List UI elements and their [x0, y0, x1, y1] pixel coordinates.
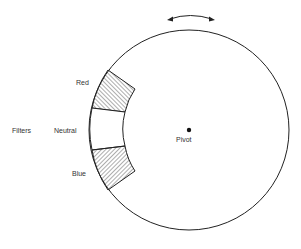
label-pivot: Pivot: [176, 136, 192, 143]
label-blue: Blue: [72, 170, 86, 177]
label-neutral: Neutral: [54, 127, 77, 134]
rotation-arrow-icon: [167, 16, 215, 22]
neutral-filter: [90, 108, 125, 150]
pivot-point-icon: [187, 128, 191, 132]
filter-wheel-diagram: [0, 0, 301, 249]
label-filters: Filters: [12, 127, 31, 134]
label-red: Red: [76, 79, 89, 86]
